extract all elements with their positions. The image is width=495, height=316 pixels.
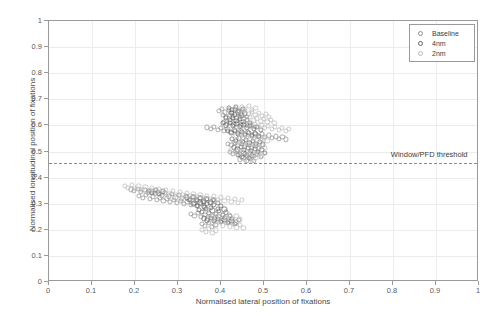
x-tick [306,281,307,285]
y-tick-label: 0.3 [32,198,42,207]
x-tick [134,281,135,285]
gridline-horizontal [49,178,477,179]
data-point [265,138,270,143]
x-tick [177,281,178,285]
gridline-horizontal [49,204,477,205]
x-tick [349,281,350,285]
x-tick-label: 0.1 [86,286,96,295]
gridline-vertical [92,21,93,280]
gridline-vertical [307,21,308,280]
x-tick-label: 1 [476,286,480,295]
y-tick-label: 0.8 [32,68,42,77]
x-tick [220,281,221,285]
x-tick-label: 0.7 [344,286,354,295]
gridline-horizontal [49,256,477,257]
y-tick-label: 0.4 [32,172,42,181]
y-tick-label: 1 [38,16,42,25]
y-tick-label: 0 [38,277,42,286]
data-point [262,146,267,151]
x-tick-label: 0.4 [215,286,225,295]
x-axis-label: Normalised lateral position of fixations [48,297,478,306]
legend-item-4nm[interactable]: 4nm [413,38,472,48]
x-tick-label: 0.3 [172,286,182,295]
window-pfd-threshold-label: Window/PFD threshold [391,150,468,159]
y-tick-label: 0.7 [32,94,42,103]
x-tick-label: 0.2 [129,286,139,295]
gridline-vertical [178,21,179,280]
gridline-horizontal [49,99,477,100]
window-pfd-threshold-line [49,163,477,164]
x-tick-label: 0.5 [258,286,268,295]
y-tick-label: 0.5 [32,146,42,155]
data-point [213,228,218,233]
gridline-vertical [221,21,222,280]
x-tick [48,281,49,285]
gridline-horizontal [49,73,477,74]
x-tick [435,281,436,285]
legend-marker-icon [418,51,423,56]
gridline-horizontal [49,230,477,231]
data-point [237,217,242,222]
legend-marker-icon [418,31,423,36]
legend-label: 4nm [432,40,446,47]
gridline-vertical [135,21,136,280]
x-tick-label: 0.9 [430,286,440,295]
legend: Baseline4nm2nm [409,24,475,62]
legend-item-2nm[interactable]: 2nm [413,48,472,58]
legend-item-baseline[interactable]: Baseline [413,28,472,38]
x-tick [478,281,479,285]
x-tick-label: 0 [46,286,50,295]
legend-label: 2nm [432,50,446,57]
y-tick-label: 0.2 [32,224,42,233]
x-tick [263,281,264,285]
x-tick-label: 0.8 [387,286,397,295]
data-point [253,156,258,161]
data-point [286,126,291,131]
y-tick-label: 0.9 [32,42,42,51]
y-tick-label: 0.1 [32,250,42,259]
x-tick [392,281,393,285]
legend-label: Baseline [432,30,459,37]
y-tick-label: 0.6 [32,120,42,129]
data-point [283,137,288,142]
data-point [239,197,244,202]
x-tick [91,281,92,285]
gridline-vertical [350,21,351,280]
legend-marker-icon [418,41,423,46]
scatter-plot-figure: Normalised longitudinal position of fixa… [0,0,495,316]
x-tick-label: 0.6 [301,286,311,295]
